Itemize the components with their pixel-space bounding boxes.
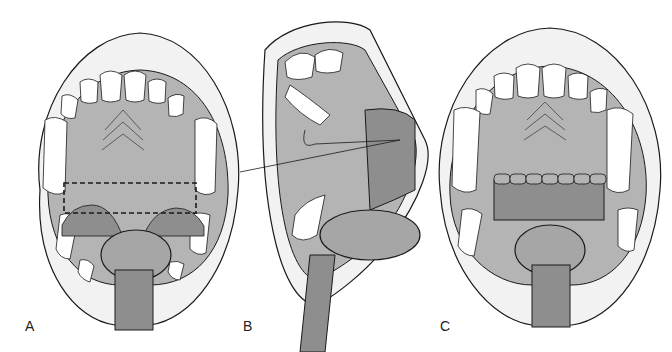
panel-c: C xyxy=(432,0,672,352)
mouth-illustration-a xyxy=(0,0,240,352)
panel-label-a: A xyxy=(25,318,34,334)
panel-label-c: C xyxy=(440,318,450,334)
panel-b: B xyxy=(220,0,450,352)
panel-label-b: B xyxy=(243,318,252,334)
mouth-illustration-c xyxy=(432,0,672,352)
mouth-illustration-b xyxy=(220,0,450,352)
panel-a: A xyxy=(0,0,240,352)
